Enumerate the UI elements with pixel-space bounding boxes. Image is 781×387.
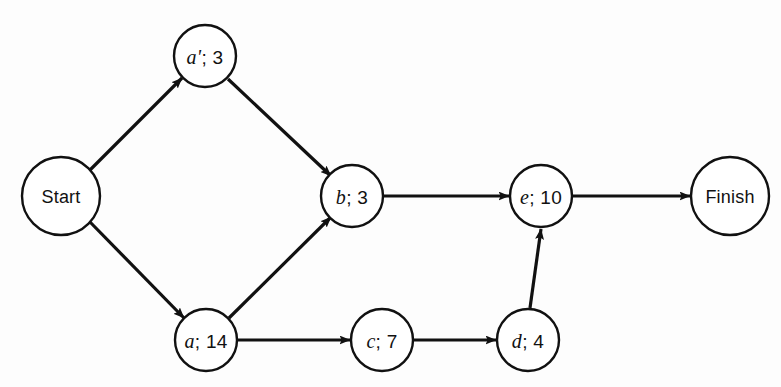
- node-c-duration: 7: [387, 331, 398, 352]
- edge-d-to-e: [530, 229, 541, 308]
- node-aprime[interactable]: a'; 3: [174, 25, 236, 87]
- node-e-label: e; 10: [520, 186, 562, 208]
- project-network-diagram: Start a'; 3 b; 3 a; 14: [0, 0, 781, 387]
- node-d[interactable]: d; 4: [497, 309, 559, 371]
- node-start[interactable]: Start: [22, 157, 100, 235]
- node-a-task: a: [184, 330, 194, 352]
- edge-start-to-aprime: [90, 78, 182, 170]
- node-aprime-sep: ;: [201, 47, 212, 68]
- node-a-label: a; 14: [184, 330, 227, 352]
- edge-aprime-to-b: [228, 79, 331, 176]
- node-b-sep: ;: [346, 187, 357, 208]
- node-aprime-task: a': [187, 46, 202, 68]
- node-e-task: e: [520, 186, 529, 208]
- node-c[interactable]: c; 7: [351, 309, 413, 371]
- node-b-task: b: [336, 186, 346, 208]
- node-group: Start a'; 3 b; 3 a; 14: [22, 25, 769, 371]
- node-a[interactable]: a; 14: [175, 309, 237, 371]
- edge-start-to-a: [90, 222, 184, 318]
- node-finish[interactable]: Finish: [691, 157, 769, 235]
- node-aprime-duration: 3: [213, 47, 224, 68]
- node-d-duration: 4: [533, 331, 544, 352]
- node-aprime-label: a'; 3: [187, 46, 224, 68]
- network-canvas: Start a'; 3 b; 3 a; 14: [0, 0, 781, 387]
- node-d-sep: ;: [522, 331, 533, 352]
- node-e[interactable]: e; 10: [510, 165, 572, 227]
- node-b-label: b; 3: [336, 186, 368, 208]
- node-c-label: c; 7: [366, 330, 397, 352]
- node-b[interactable]: b; 3: [321, 165, 383, 227]
- node-a-duration: 14: [206, 331, 228, 352]
- node-e-sep: ;: [529, 187, 540, 208]
- node-finish-label: Finish: [705, 187, 754, 207]
- node-start-label: Start: [41, 187, 80, 207]
- edge-a-to-b: [229, 217, 331, 318]
- node-d-label: d; 4: [512, 330, 544, 352]
- node-b-duration: 3: [357, 187, 368, 208]
- node-c-sep: ;: [376, 331, 387, 352]
- node-e-duration: 10: [540, 187, 562, 208]
- edge-group: [90, 78, 690, 340]
- node-c-task: c: [366, 330, 375, 352]
- node-a-sep: ;: [195, 331, 206, 352]
